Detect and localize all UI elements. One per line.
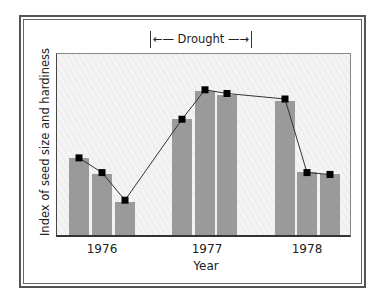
- bar-1977-2: [195, 91, 215, 235]
- x-tick-1978: 1978: [292, 242, 323, 256]
- drought-label: ←— Drought —→: [150, 32, 252, 46]
- y-axis-label: Index of seed size and hardiness: [38, 48, 52, 236]
- plot-area: [56, 53, 351, 237]
- x-tick-1976: 1976: [87, 242, 118, 256]
- bar-1978-1: [275, 101, 295, 235]
- bar-1977-3: [217, 95, 237, 235]
- bar-1976-1: [69, 158, 89, 235]
- bar-1977-1: [172, 119, 192, 235]
- x-tick-1977: 1977: [192, 242, 223, 256]
- bar-1976-3: [115, 202, 135, 235]
- drought-annotation: ←— Drought —→: [150, 31, 252, 48]
- bar-1976-2: [92, 174, 112, 235]
- x-axis-label: Year: [193, 259, 218, 273]
- drought-end-marker: [251, 31, 252, 48]
- bar-1978-2: [297, 172, 317, 235]
- bar-1978-3: [320, 174, 340, 235]
